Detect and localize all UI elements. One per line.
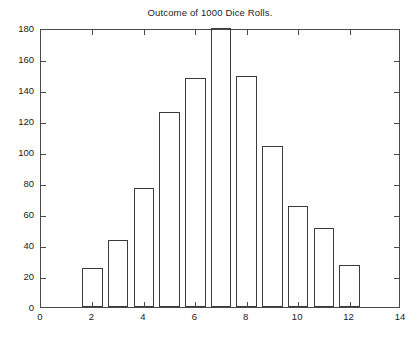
bar xyxy=(262,146,283,307)
y-tick-label: 0 xyxy=(0,302,34,313)
y-tick-mark-right xyxy=(394,216,399,217)
bars-layer xyxy=(41,30,399,307)
x-tick-mark xyxy=(298,302,299,307)
x-tick-mark-top xyxy=(144,30,145,35)
y-tick-label: 140 xyxy=(0,85,34,96)
y-tick-mark-right xyxy=(394,123,399,124)
y-tick-mark-right xyxy=(394,154,399,155)
x-tick-label: 10 xyxy=(282,311,312,322)
bar xyxy=(236,76,257,307)
x-tick-mark xyxy=(144,302,145,307)
x-tick-label: 8 xyxy=(231,311,261,322)
bar xyxy=(185,78,206,307)
figure-canvas: Outcome of 1000 Dice Rolls. 02468101214 … xyxy=(0,0,420,342)
x-tick-mark-top xyxy=(92,30,93,35)
y-tick-label: 160 xyxy=(0,54,34,65)
bar xyxy=(288,206,309,307)
bar xyxy=(108,240,129,307)
y-tick-mark xyxy=(41,185,46,186)
y-tick-mark-right xyxy=(394,278,399,279)
x-tick-label: 2 xyxy=(76,311,106,322)
y-tick-label: 100 xyxy=(0,147,34,158)
y-tick-mark-right xyxy=(394,185,399,186)
x-tick-mark-top xyxy=(350,30,351,35)
y-tick-mark-right xyxy=(394,61,399,62)
x-tick-label: 12 xyxy=(334,311,364,322)
y-tick-label: 20 xyxy=(0,271,34,282)
x-tick-label: 6 xyxy=(179,311,209,322)
y-tick-mark xyxy=(41,92,46,93)
y-tick-label: 60 xyxy=(0,209,34,220)
bar xyxy=(159,112,180,307)
x-tick-mark xyxy=(350,302,351,307)
plot-area xyxy=(40,29,400,308)
chart-title: Outcome of 1000 Dice Rolls. xyxy=(0,7,420,18)
x-tick-mark xyxy=(92,302,93,307)
bar xyxy=(211,28,232,307)
y-tick-mark xyxy=(41,247,46,248)
bar xyxy=(314,228,335,307)
x-tick-label: 4 xyxy=(128,311,158,322)
y-tick-label: 40 xyxy=(0,240,34,251)
y-tick-mark xyxy=(41,154,46,155)
x-tick-mark-top xyxy=(195,30,196,35)
y-tick-mark xyxy=(41,61,46,62)
bar xyxy=(134,188,155,307)
x-tick-mark-top xyxy=(298,30,299,35)
y-tick-mark xyxy=(41,123,46,124)
x-tick-mark xyxy=(195,302,196,307)
x-tick-label: 14 xyxy=(385,311,415,322)
y-tick-mark-right xyxy=(394,247,399,248)
y-tick-label: 120 xyxy=(0,116,34,127)
y-tick-label: 80 xyxy=(0,178,34,189)
y-tick-mark xyxy=(41,278,46,279)
bar xyxy=(339,265,360,307)
y-tick-label: 180 xyxy=(0,23,34,34)
x-tick-mark xyxy=(247,302,248,307)
y-tick-mark-right xyxy=(394,92,399,93)
x-tick-mark-top xyxy=(247,30,248,35)
y-tick-mark xyxy=(41,216,46,217)
